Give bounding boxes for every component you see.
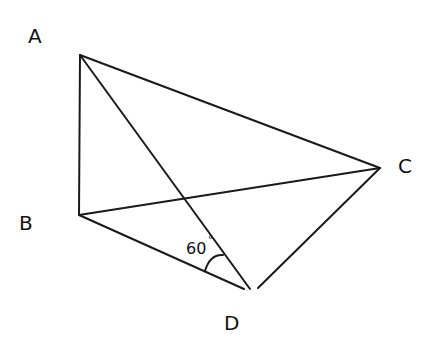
degree-symbol: °: [208, 235, 213, 245]
point-label-d: D: [224, 313, 239, 333]
segment-ac: [80, 55, 380, 168]
angle-label: 60: [186, 241, 206, 257]
geometry-figure: [0, 0, 431, 352]
point-label-b: B: [19, 213, 33, 233]
segment-ab: [79, 55, 80, 215]
angle-arc-d: [205, 255, 223, 271]
point-label-c: C: [398, 156, 412, 176]
segment-cd: [258, 168, 380, 288]
segment-bd: [79, 215, 244, 289]
segment-bc: [79, 168, 380, 215]
point-label-a: A: [28, 26, 42, 46]
